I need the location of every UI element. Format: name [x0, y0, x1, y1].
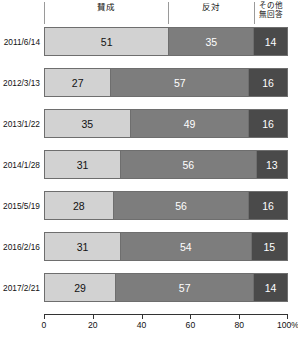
bar-value-approve: 28	[73, 200, 85, 212]
bar-segment-other: 16	[248, 69, 287, 96]
x-tick-2	[142, 314, 143, 319]
bar-segment-oppose: 56	[120, 151, 256, 178]
row-label-7: 2017/2/21	[0, 283, 40, 293]
bar-segment-approve: 51	[45, 28, 168, 55]
bar-value-other: 14	[265, 282, 277, 294]
table-row: 295714	[44, 273, 288, 302]
bar-segment-other: 16	[248, 110, 287, 137]
bar-segment-approve: 27	[45, 69, 110, 96]
x-tick-label-2: 40	[137, 320, 147, 330]
header-label-other: その他 無回答	[254, 1, 288, 19]
table-row: 315613	[44, 150, 288, 179]
x-tick-0	[44, 314, 45, 319]
row-label-3: 2013/1/22	[0, 119, 40, 129]
bar-value-oppose: 57	[174, 77, 186, 89]
x-tick-1	[93, 314, 94, 319]
table-row: 315415	[44, 232, 288, 261]
bar-value-other: 14	[265, 36, 277, 48]
bar-value-other: 16	[262, 200, 274, 212]
bar-value-other: 15	[263, 241, 275, 253]
bar-segment-approve: 28	[45, 192, 113, 219]
table-row: 285616	[44, 191, 288, 220]
bar-value-approve: 29	[74, 282, 86, 294]
header-label-other-line2: 無回答	[259, 10, 283, 19]
bar-segment-approve: 31	[45, 151, 120, 178]
header-label-other-line1: その他	[259, 1, 283, 10]
bar-segment-oppose: 56	[113, 192, 249, 219]
row-label-1: 2011/6/14	[0, 37, 40, 47]
bar-value-oppose: 56	[182, 159, 194, 171]
bar-value-oppose: 57	[179, 282, 191, 294]
bar-value-approve: 27	[72, 77, 84, 89]
x-tick-label-0: 0	[42, 320, 47, 330]
bar-value-oppose: 56	[175, 200, 187, 212]
header-label-oppose: 反対	[168, 2, 253, 12]
bar-value-oppose: 54	[180, 241, 192, 253]
plot-area: 5135142757163549163156132856163154152957…	[44, 24, 288, 314]
bar-segment-oppose: 57	[110, 69, 248, 96]
bar-value-oppose: 49	[184, 118, 196, 130]
bar-segment-oppose: 49	[130, 110, 249, 137]
x-tick-4	[239, 314, 240, 319]
row-label-6: 2016/2/16	[0, 242, 40, 252]
bar-segment-oppose: 35	[168, 28, 253, 55]
bar-segment-approve: 29	[45, 274, 115, 301]
row-label-4: 2014/1/28	[0, 160, 40, 170]
stacked-bar-chart: 賛成 反対 その他 無回答 51351427571635491631561328…	[0, 0, 298, 337]
x-tick-label-5: 100%	[277, 320, 298, 330]
x-axis: 020406080100%	[44, 314, 288, 337]
bar-value-other: 13	[266, 159, 278, 171]
bar-segment-other: 15	[251, 233, 287, 260]
bar-segment-other: 13	[256, 151, 287, 178]
bar-value-oppose: 35	[205, 36, 217, 48]
x-tick-5	[287, 314, 288, 319]
bar-segment-other: 14	[253, 274, 287, 301]
table-row: 354916	[44, 109, 288, 138]
bar-value-other: 16	[262, 77, 274, 89]
bar-value-approve: 31	[77, 159, 89, 171]
bar-value-approve: 31	[77, 241, 89, 253]
bar-segment-other: 14	[253, 28, 287, 55]
row-label-5: 2015/5/19	[0, 201, 40, 211]
table-row: 513514	[44, 27, 288, 56]
x-axis-line	[44, 314, 288, 315]
bar-segment-oppose: 54	[120, 233, 251, 260]
bar-value-approve: 35	[82, 118, 94, 130]
row-label-2: 2012/3/13	[0, 78, 40, 88]
bar-segment-approve: 31	[45, 233, 120, 260]
bar-value-approve: 51	[101, 36, 113, 48]
bar-segment-oppose: 57	[115, 274, 253, 301]
bar-segment-approve: 35	[45, 110, 130, 137]
bar-value-other: 16	[262, 118, 274, 130]
x-tick-label-1: 20	[88, 320, 98, 330]
header-label-approve: 賛成	[44, 2, 168, 12]
chart-header: 賛成 反対 その他 無回答	[44, 0, 288, 24]
x-tick-label-4: 80	[234, 320, 244, 330]
bar-segment-other: 16	[248, 192, 287, 219]
table-row: 275716	[44, 68, 288, 97]
x-tick-3	[190, 314, 191, 319]
x-tick-label-3: 60	[186, 320, 196, 330]
